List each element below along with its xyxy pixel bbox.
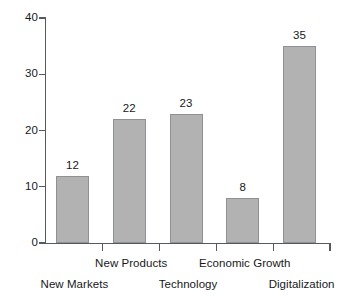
bar-value-label: 23 <box>155 98 218 110</box>
y-axis-tick-label: 20 <box>0 125 38 137</box>
y-axis-tick <box>39 242 46 243</box>
bar-value-label: 22 <box>98 103 161 115</box>
y-axis-tick-label: 40 <box>0 12 38 24</box>
x-axis-tick <box>159 244 160 251</box>
y-axis-tick <box>39 17 46 18</box>
bar-value-label: 8 <box>211 182 274 194</box>
x-axis-category-label: New Markets <box>14 278 134 290</box>
bar <box>170 114 203 243</box>
x-axis-line <box>45 243 331 244</box>
y-axis-tick <box>39 74 46 75</box>
y-axis-tick-label: 30 <box>0 68 38 80</box>
bar <box>113 119 146 243</box>
y-axis-tick <box>39 130 46 131</box>
y-axis-tick-label: 10 <box>0 181 38 193</box>
x-axis-tick <box>102 244 103 251</box>
bar <box>283 46 316 243</box>
x-axis-category-label: Economic Growth <box>185 257 305 269</box>
bar <box>56 176 89 244</box>
bar <box>226 198 259 243</box>
x-axis-tick <box>329 244 330 251</box>
x-axis-tick <box>273 244 274 251</box>
y-axis-tick <box>39 186 46 187</box>
x-axis-tick <box>216 244 217 251</box>
x-axis-category-label: New Products <box>71 257 191 269</box>
y-axis-tick-label: 0 <box>0 237 38 249</box>
x-axis-category-label: Digitalization <box>242 278 340 290</box>
bar-chart: 010203040 122223835 New MarketsNew Produ… <box>0 0 340 302</box>
bar-value-label: 12 <box>41 160 104 172</box>
bar-value-label: 35 <box>268 30 331 42</box>
x-axis-category-label: Technology <box>128 278 248 290</box>
